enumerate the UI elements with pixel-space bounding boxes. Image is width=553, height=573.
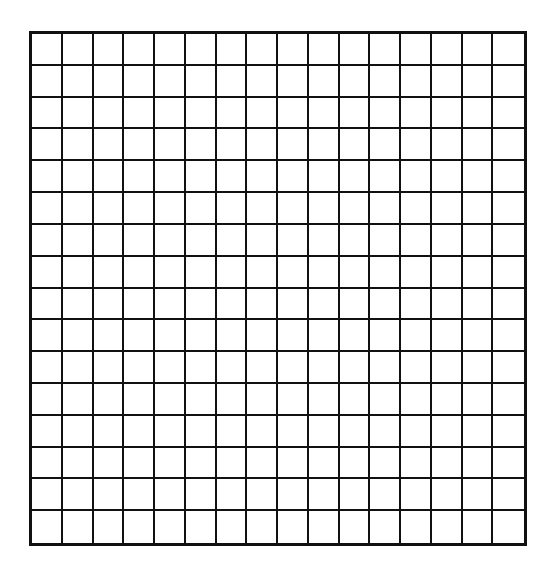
grid-cell	[370, 289, 401, 321]
grid-cell	[124, 448, 155, 480]
grid-cell	[278, 129, 309, 161]
grid-cell	[401, 448, 432, 480]
grid-cell	[94, 225, 125, 257]
grid-cell	[217, 98, 248, 130]
grid-cell	[186, 161, 217, 193]
grid-cell	[463, 384, 494, 416]
grid-cell	[401, 352, 432, 384]
grid-cell	[401, 479, 432, 511]
grid-cell	[370, 352, 401, 384]
grid-cell	[247, 34, 278, 66]
grid-cell	[463, 193, 494, 225]
grid-cell	[186, 34, 217, 66]
grid-cell	[370, 448, 401, 480]
grid-cell	[463, 225, 494, 257]
grid-cell	[155, 98, 186, 130]
grid-cell	[217, 161, 248, 193]
grid-cell	[32, 34, 63, 66]
grid-cell	[63, 416, 94, 448]
grid-cell	[463, 66, 494, 98]
grid-cell	[32, 320, 63, 352]
grid-cell	[340, 225, 371, 257]
grid-cell	[63, 289, 94, 321]
grid-cell	[432, 257, 463, 289]
grid-cell	[32, 416, 63, 448]
grid-cell	[370, 320, 401, 352]
grid-cell	[340, 416, 371, 448]
grid-cell	[370, 416, 401, 448]
grid-cell	[94, 511, 125, 543]
grid-cell	[217, 320, 248, 352]
grid-cell	[63, 320, 94, 352]
grid-cell	[32, 98, 63, 130]
grid-cell	[401, 289, 432, 321]
grid-cell	[217, 257, 248, 289]
grid-cell	[493, 352, 524, 384]
grid-cell	[217, 34, 248, 66]
grid-cell	[340, 352, 371, 384]
grid-cell	[63, 384, 94, 416]
grid-cell	[370, 34, 401, 66]
grid-cell	[247, 161, 278, 193]
grid-cell	[401, 225, 432, 257]
grid-cell	[278, 225, 309, 257]
grid-cell	[340, 257, 371, 289]
grid-cell	[32, 161, 63, 193]
grid-cell	[217, 66, 248, 98]
grid-cell	[186, 66, 217, 98]
grid-cell	[493, 416, 524, 448]
grid-cell	[155, 66, 186, 98]
grid-cell	[432, 129, 463, 161]
grid-cell	[155, 479, 186, 511]
grid-cell	[340, 34, 371, 66]
grid-cell	[432, 511, 463, 543]
grid-cell	[278, 161, 309, 193]
grid-cell	[278, 352, 309, 384]
grid-cell	[278, 289, 309, 321]
grid-cell	[155, 161, 186, 193]
grid-cell	[432, 225, 463, 257]
grid-cell	[32, 257, 63, 289]
grid-cell	[493, 161, 524, 193]
grid-cell	[155, 352, 186, 384]
grid-cell	[124, 257, 155, 289]
grid-cell	[278, 448, 309, 480]
grid-cell	[217, 511, 248, 543]
grid-cell	[63, 448, 94, 480]
grid-cell	[401, 34, 432, 66]
grid-cell	[463, 416, 494, 448]
grid-cell	[94, 352, 125, 384]
grid-cell	[463, 289, 494, 321]
grid-cell	[186, 320, 217, 352]
grid-cell	[217, 448, 248, 480]
grid-cell	[155, 384, 186, 416]
grid-cell	[63, 511, 94, 543]
grid-cell	[247, 384, 278, 416]
grid-cell	[309, 257, 340, 289]
grid-cell	[217, 352, 248, 384]
grid-cell	[155, 129, 186, 161]
grid-cell	[94, 193, 125, 225]
grid-cell	[155, 257, 186, 289]
grid-cell	[124, 511, 155, 543]
grid-cell	[401, 384, 432, 416]
grid-cell	[309, 193, 340, 225]
grid-cell	[463, 479, 494, 511]
grid-cell	[186, 384, 217, 416]
grid-cell	[186, 511, 217, 543]
grid-cell	[309, 98, 340, 130]
grid-cell	[370, 511, 401, 543]
grid-cell	[309, 320, 340, 352]
grid-cell	[63, 352, 94, 384]
grid-cell	[186, 129, 217, 161]
square-grid	[29, 31, 527, 546]
grid-cell	[463, 161, 494, 193]
grid-cell	[186, 98, 217, 130]
grid-cell	[401, 129, 432, 161]
grid-cell	[463, 511, 494, 543]
grid-cell	[124, 193, 155, 225]
grid-cell	[247, 257, 278, 289]
grid-cell	[32, 511, 63, 543]
grid-cell	[309, 129, 340, 161]
grid-cell	[32, 193, 63, 225]
